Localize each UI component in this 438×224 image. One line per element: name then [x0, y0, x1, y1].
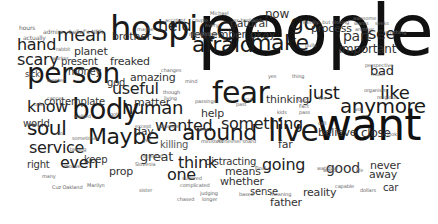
- cloud-word: world: [323, 168, 336, 173]
- cloud-word: talking: [70, 147, 86, 152]
- cloud-word: father: [270, 197, 302, 208]
- cloud-word: many: [42, 174, 56, 179]
- cloud-word: chased: [177, 197, 194, 202]
- cloud-word: away: [369, 169, 397, 180]
- cloud-word: yet: [143, 138, 151, 143]
- cloud-word: far: [278, 139, 292, 150]
- cloud-word: admire: [43, 29, 63, 35]
- cloud-word: except: [135, 124, 151, 129]
- cloud-word: now: [265, 8, 289, 20]
- cloud-word: to: [58, 131, 63, 136]
- cloud-word: call: [318, 121, 326, 126]
- cloud-word: scientist: [143, 154, 163, 159]
- cloud-word: life: [356, 168, 363, 173]
- cloud-word: another: [355, 27, 374, 32]
- cloud-word: walked: [74, 114, 91, 119]
- cloud-word: Family...but visiting: [303, 20, 349, 25]
- cloud-word: important: [339, 43, 396, 55]
- cloud-word: Michael: [210, 11, 228, 16]
- cloud-word: hard: [245, 139, 256, 144]
- cloud-word: seen: [26, 122, 38, 127]
- cloud-word: pass: [299, 110, 310, 115]
- cloud-word: motive: [64, 164, 81, 169]
- cloud-word: Cuz Oakland: [52, 185, 82, 190]
- cloud-word: living: [164, 96, 177, 101]
- cloud-word: anything: [385, 30, 406, 35]
- cloud-word: cancer: [47, 96, 63, 101]
- cloud-word: ask: [354, 107, 362, 112]
- cloud-word: actually: [23, 35, 46, 41]
- cloud-word: car: [383, 183, 398, 193]
- cloud-word: thing: [292, 74, 304, 79]
- cloud-word: worker: [52, 56, 68, 61]
- cloud-word: sick: [25, 71, 40, 79]
- cloud-word: amazing: [130, 72, 175, 83]
- cloud-word: maybe: [137, 27, 154, 32]
- cloud-word: prop: [109, 166, 133, 177]
- cloud-word: much: [371, 72, 385, 77]
- cloud-word: year: [198, 127, 209, 132]
- cloud-word: talk: [34, 102, 43, 107]
- cloud-word: killing: [160, 140, 188, 150]
- cloud-word: yes: [268, 74, 276, 79]
- cloud-word: Slovenia: [135, 162, 155, 167]
- cloud-word: Yes: [318, 96, 326, 101]
- cloud-word: something: [221, 116, 303, 132]
- cloud-word: every: [205, 23, 219, 28]
- cloud-word: changes: [161, 68, 181, 73]
- cloud-word: kids: [277, 110, 287, 115]
- cloud-word: mind: [185, 79, 197, 84]
- cloud-word: right: [27, 160, 50, 170]
- cloud-word: reenter: [47, 78, 65, 83]
- cloud-word: god: [107, 78, 125, 88]
- cloud-word: meaning: [270, 192, 291, 197]
- cloud-word: organism: [364, 88, 387, 93]
- cloud-word: dollars: [360, 188, 376, 193]
- cloud-word: look: [387, 132, 397, 137]
- cloud-word: seeks: [375, 21, 389, 26]
- cloud-word: sometimes: [72, 136, 99, 141]
- cloud-word: keep: [84, 155, 107, 165]
- cloud-word: going: [262, 157, 305, 173]
- cloud-word: help: [201, 108, 224, 119]
- cloud-word: money: [68, 67, 101, 77]
- cloud-word: planet: [74, 46, 108, 57]
- cloud-word: capable: [335, 184, 354, 189]
- cloud-word: ex-husband: [233, 18, 261, 23]
- cloud-word: Final: [255, 166, 266, 171]
- cloud-word: passings: [195, 99, 216, 104]
- cloud-word: got: [110, 112, 118, 117]
- cloud-word: rabbit: [56, 47, 70, 52]
- cloud-word: perspective: [365, 63, 393, 68]
- cloud-word: pulls: [305, 43, 316, 48]
- cloud-word: distracting: [205, 157, 256, 167]
- cloud-word: belief's NPR: [69, 29, 103, 35]
- cloud-word: freaked: [110, 56, 150, 67]
- cloud-word: accident: [165, 18, 186, 23]
- cloud-word: relationship: [189, 32, 217, 37]
- cloud-word: reality: [303, 187, 336, 198]
- cloud-word: believe: [318, 127, 356, 138]
- cloud-word: Alzheimer's: [217, 139, 245, 144]
- word-cloud: peoplewanthospicefearpersonbodyliveafrai…: [0, 0, 438, 224]
- cloud-word: complicated: [180, 183, 210, 188]
- cloud-word: evidence: [157, 124, 179, 129]
- cloud-word: suffered: [182, 176, 202, 181]
- cloud-word: brother: [112, 31, 151, 42]
- cloud-word: past: [236, 102, 246, 107]
- cloud-word: okay: [250, 29, 275, 40]
- cloud-word: based: [239, 192, 254, 197]
- cloud-word: religious: [377, 95, 397, 100]
- cloud-word: Marilyn: [87, 183, 105, 188]
- cloud-word: longer: [202, 197, 217, 202]
- cloud-word: hours: [19, 25, 35, 31]
- cloud-word: sister: [139, 188, 152, 193]
